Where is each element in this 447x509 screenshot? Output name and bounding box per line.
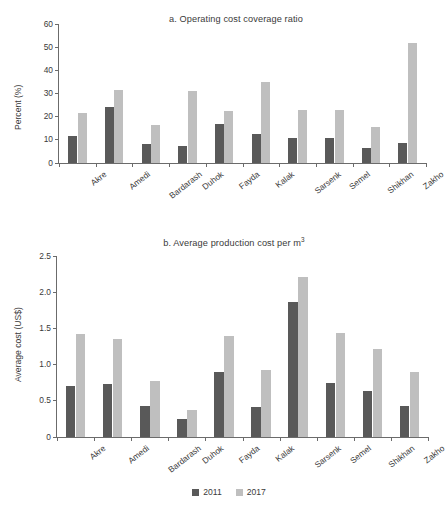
x-axis-label-semel: Semel: [347, 169, 372, 192]
x-axis-label-fayda: Fayda: [237, 169, 262, 191]
bar-fayda-2011: [214, 372, 224, 437]
chart-b-y-axis-label: Average cost (US$): [13, 307, 23, 382]
y-axis-tick-mark: [55, 70, 59, 71]
x-axis-tick: [96, 163, 97, 167]
bar-amedi-2017: [113, 339, 123, 437]
chart-a-y-axis-label: Percent (%): [13, 85, 23, 130]
x-axis-label-fayda: Fayda: [237, 443, 262, 465]
bar-semel-2011: [326, 383, 336, 437]
chart-a-title: a. Operating cost coverage ratio: [0, 12, 438, 24]
chart-b-title: b. Average production cost per m3: [0, 236, 438, 248]
bar-sarsenk-2011: [288, 138, 297, 163]
bar-bardarash-2011: [142, 144, 151, 163]
chart-panel-b: b. Average production cost per m3 Averag…: [0, 232, 438, 480]
x-axis-label-kalak: Kalak: [273, 443, 296, 464]
x-axis-label-semel: Semel: [348, 443, 373, 466]
x-axis-tick: [132, 163, 133, 167]
y-axis-tick-label: 1.5: [39, 323, 51, 334]
x-axis-tick: [94, 437, 95, 441]
x-axis-tick: [428, 437, 429, 441]
y-axis-tick-mark: [53, 364, 57, 365]
x-axis-tick: [354, 437, 355, 441]
x-axis-tick: [243, 163, 244, 167]
x-axis-tick: [206, 163, 207, 167]
bar-kalak-2017: [261, 370, 271, 437]
bar-bardarash-2017: [150, 381, 160, 437]
y-axis-tick-mark: [53, 400, 57, 401]
bar-zakho-2011: [398, 143, 407, 163]
y-axis-tick-label: 1.0: [39, 359, 51, 370]
chart-a-title-text: a. Operating cost coverage ratio: [169, 14, 303, 24]
y-axis-tick-label: 30: [44, 88, 53, 99]
x-axis-tick: [243, 437, 244, 441]
bar-duhok-2017: [188, 91, 197, 163]
y-axis-tick-label: 60: [44, 19, 53, 30]
bar-shikhan-2017: [371, 127, 380, 163]
legend-swatch-2011: [192, 489, 199, 496]
x-axis-tick: [353, 163, 354, 167]
y-axis-tick-label: 20: [44, 111, 53, 122]
x-axis-label-zakho: Zakho: [422, 443, 447, 465]
x-axis-label-duhok: Duhok: [201, 169, 226, 192]
bar-kalak-2011: [251, 407, 261, 437]
legend-item-2011: 2011: [192, 487, 221, 497]
bar-fayda-2011: [215, 124, 224, 163]
bar-semel-2017: [335, 110, 344, 163]
bar-duhok-2011: [178, 146, 187, 163]
bar-amedi-2017: [114, 90, 123, 163]
chart-b-title-superscript: 3: [301, 236, 305, 243]
x-axis-label-kalak: Kalak: [273, 169, 296, 190]
x-axis-tick: [169, 163, 170, 167]
x-axis-label-duhok: Duhok: [200, 443, 225, 466]
x-axis-label-amedi: Amedi: [127, 169, 152, 192]
bar-bardarash-2011: [140, 406, 150, 437]
x-axis-tick: [59, 163, 60, 167]
chart-b-title-text: b. Average production cost per m: [163, 238, 301, 248]
x-axis-tick: [205, 437, 206, 441]
x-axis-label-shikhan: Shikhan: [387, 443, 417, 470]
bar-amedi-2011: [105, 107, 114, 163]
bar-zakho-2017: [410, 372, 420, 437]
y-axis-tick-mark: [53, 292, 57, 293]
bar-semel-2017: [336, 333, 346, 437]
bar-zakho-2011: [400, 406, 410, 437]
bar-semel-2011: [325, 138, 334, 163]
x-axis-tick: [279, 163, 280, 167]
y-axis-tick-label: 50: [44, 42, 53, 53]
bar-fayda-2017: [224, 111, 233, 163]
y-axis-tick-mark: [53, 328, 57, 329]
x-axis-tick: [316, 163, 317, 167]
bar-fayda-2017: [224, 336, 234, 437]
bar-shikhan-2011: [363, 391, 373, 437]
x-axis-label-shikhan: Shikhan: [385, 169, 415, 196]
chart-a-plot-area: 0102030405060AkreAmediBardarashDuhokFayd…: [58, 24, 426, 164]
y-axis-tick-label: 0: [46, 432, 51, 443]
x-axis-tick: [389, 163, 390, 167]
x-axis-label-bardarash: Bardarash: [166, 443, 203, 475]
legend-label-2011: 2011: [203, 487, 221, 497]
bar-shikhan-2011: [362, 148, 371, 163]
y-axis-tick-mark: [55, 116, 59, 117]
y-axis-tick-label: 2.0: [39, 287, 51, 298]
x-axis-tick: [280, 437, 281, 441]
chart-legend: 2011 2017: [0, 487, 438, 497]
bar-amedi-2011: [103, 384, 113, 437]
y-axis-tick-mark: [55, 24, 59, 25]
x-axis-label-zakho: Zakho: [421, 169, 446, 191]
y-axis-tick-label: 0: [48, 158, 53, 169]
y-axis-tick-label: 0.5: [39, 395, 51, 406]
bar-kalak-2017: [261, 82, 270, 163]
x-axis-tick: [168, 437, 169, 441]
x-axis-label-bardarash: Bardarash: [167, 169, 204, 201]
y-axis-tick-mark: [53, 256, 57, 257]
bar-shikhan-2017: [373, 349, 383, 437]
bar-bardarash-2017: [151, 125, 160, 163]
x-axis-label-sarsenk: Sarsenk: [313, 443, 343, 470]
legend-label-2017: 2017: [247, 487, 266, 497]
bar-sarsenk-2017: [298, 277, 308, 437]
chart-panel-a: a. Operating cost coverage ratio Percent…: [0, 0, 438, 232]
x-axis-tick: [426, 163, 427, 167]
bar-kalak-2011: [252, 134, 261, 163]
x-axis-label-sarsenk: Sarsenk: [312, 169, 342, 196]
